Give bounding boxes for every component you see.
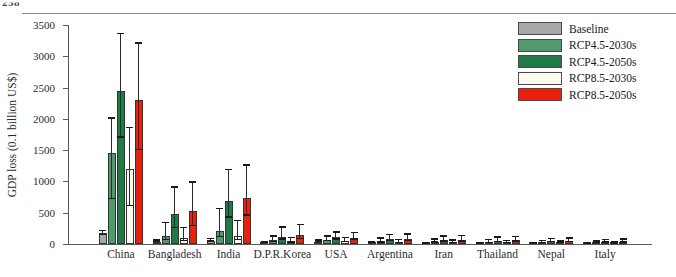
bar-item[interactable] xyxy=(377,25,385,244)
legend-label: RCP8.5-2050s xyxy=(569,89,636,101)
error-bar-cap-bottom xyxy=(234,239,241,240)
error-bar-cap-bottom xyxy=(315,241,322,242)
y-axis-title: GDP loss (0.1 billion US$) xyxy=(6,72,18,197)
x-axis-line xyxy=(68,244,652,245)
error-bar-cap-top xyxy=(593,240,600,241)
error-bar-cap-top xyxy=(351,232,358,233)
legend-item[interactable]: RCP8.5-2030s xyxy=(518,72,636,85)
error-bar-cap-bottom xyxy=(324,240,331,241)
bar-item[interactable] xyxy=(99,25,107,244)
y-tick-label-2500: 2500 xyxy=(33,82,55,94)
error-bar-cap-top xyxy=(485,239,492,240)
x-tick-label: China xyxy=(107,248,134,260)
error-bar-cap-bottom xyxy=(395,242,402,243)
bar-item[interactable] xyxy=(476,25,484,244)
bar-item[interactable] xyxy=(189,25,197,244)
bar-item[interactable] xyxy=(368,25,376,244)
bar-item[interactable] xyxy=(243,25,251,244)
error-bar-cap-bottom xyxy=(243,214,250,215)
error-bar-cap-top xyxy=(476,242,483,243)
bar-item[interactable] xyxy=(440,25,448,244)
bar-item[interactable] xyxy=(341,25,349,244)
x-tick-label: USA xyxy=(325,248,348,260)
bar-group xyxy=(152,25,198,244)
bar-group xyxy=(206,25,252,244)
bar-item[interactable] xyxy=(287,25,295,244)
x-tick-label: D.P.R.Korea xyxy=(253,248,311,260)
bar-item[interactable] xyxy=(323,25,331,244)
bar-group xyxy=(367,25,413,244)
bar-item[interactable] xyxy=(350,25,358,244)
bar-item[interactable] xyxy=(225,25,233,244)
error-bar-cap-bottom xyxy=(512,240,519,241)
bar-item[interactable] xyxy=(180,25,188,244)
bar-item[interactable] xyxy=(296,25,304,244)
bar-item[interactable] xyxy=(494,25,502,244)
x-tick-label: Thailand xyxy=(477,248,518,260)
error-bar-cap-bottom xyxy=(593,242,600,243)
bar-item[interactable] xyxy=(404,25,412,244)
bar-item[interactable] xyxy=(126,25,134,244)
error-bar-cap-top xyxy=(503,240,510,241)
error-bar-cap-bottom xyxy=(602,241,609,242)
x-tick-label: Iran xyxy=(434,248,453,260)
bar-item[interactable] xyxy=(332,25,340,244)
x-tick-label: Argentina xyxy=(367,248,413,260)
legend-label: RCP4.5-2030s xyxy=(569,39,636,51)
error-bar-cap-bottom xyxy=(180,240,187,241)
error-bar-cap-bottom xyxy=(548,241,555,242)
bar-item[interactable] xyxy=(171,25,179,244)
error-bar-cap-bottom xyxy=(440,240,447,241)
bar-item[interactable] xyxy=(117,25,125,244)
error-bar-cap-bottom xyxy=(539,242,546,243)
error-bar-cap-top xyxy=(404,233,411,234)
bar-item[interactable] xyxy=(314,25,322,244)
bar-item[interactable] xyxy=(153,25,161,244)
bar-item[interactable] xyxy=(216,25,224,244)
error-bar-cap-bottom xyxy=(207,240,214,241)
error-bar-cap-top xyxy=(243,164,250,165)
error-bar-cap-bottom xyxy=(449,242,456,243)
error-bar-cap-top xyxy=(512,236,519,237)
error-bar-cap-bottom xyxy=(342,241,349,242)
error-bar-cap-top xyxy=(288,237,295,238)
error-bar-cap-top xyxy=(449,239,456,240)
error-bar-cap-bottom xyxy=(566,241,573,242)
legend-label: Baseline xyxy=(569,23,609,35)
legend-item[interactable]: RCP4.5-2050s xyxy=(518,55,636,68)
bar-item[interactable] xyxy=(269,25,277,244)
legend-swatch xyxy=(518,72,562,85)
error-bar-cap-bottom xyxy=(117,136,124,137)
error-bar-cap-top xyxy=(315,239,322,240)
bar-item[interactable] xyxy=(422,25,430,244)
bar-item[interactable] xyxy=(449,25,457,244)
error-bar-cap-top xyxy=(377,237,384,238)
error-bar-cap-bottom xyxy=(126,205,133,206)
error-bar-cap-bottom xyxy=(279,238,286,239)
error-bar-cap-bottom xyxy=(611,242,618,243)
y-tick-0: 0 xyxy=(63,244,68,245)
bar-group xyxy=(313,25,359,244)
bar-item[interactable] xyxy=(135,25,143,244)
legend-item[interactable]: Baseline xyxy=(518,22,636,35)
bar-item[interactable] xyxy=(485,25,493,244)
error-bar xyxy=(192,183,193,227)
bar-item[interactable] xyxy=(278,25,286,244)
bar-item[interactable] xyxy=(386,25,394,244)
error-bar xyxy=(138,44,139,150)
error-bar-cap-bottom xyxy=(225,216,232,217)
bar-item[interactable] xyxy=(234,25,242,244)
legend-item[interactable]: RCP8.5-2050s xyxy=(518,88,636,101)
bar-item[interactable] xyxy=(458,25,466,244)
y-tick-label-1500: 1500 xyxy=(33,144,55,156)
bar-item[interactable] xyxy=(260,25,268,244)
bar-item[interactable] xyxy=(108,25,116,244)
bar-item[interactable] xyxy=(431,25,439,244)
bar-item[interactable] xyxy=(207,25,215,244)
bar-item[interactable] xyxy=(503,25,511,244)
error-bar-cap-top xyxy=(602,239,609,240)
error-bar-cap-bottom xyxy=(333,238,340,239)
bar-item[interactable] xyxy=(162,25,170,244)
bar-item[interactable] xyxy=(395,25,403,244)
legend-item[interactable]: RCP4.5-2030s xyxy=(518,39,636,52)
